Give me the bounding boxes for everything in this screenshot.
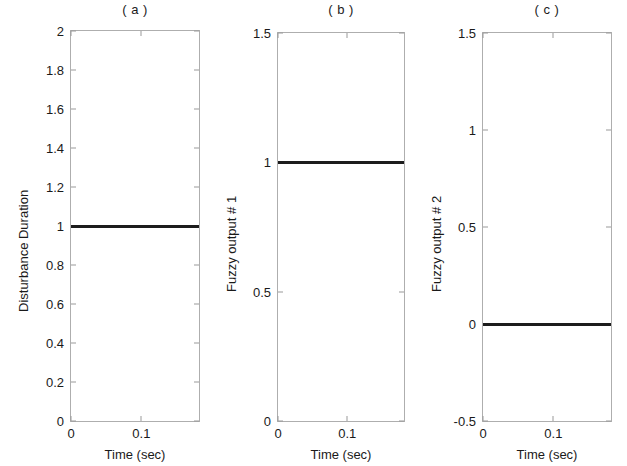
- panel-b-series-segment: [320, 161, 334, 164]
- panel-a-series-segment: [127, 225, 141, 228]
- panel-b-y-axis-label: Fuzzy output # 1: [224, 196, 239, 292]
- panel-a-y-tickmark: [71, 382, 76, 383]
- panel-b-series-segment: [278, 161, 292, 164]
- panel-c-y-tickmark: [483, 33, 488, 34]
- panel-c-x-ticklabel: 0: [479, 426, 486, 441]
- panel-b-title: ( b ): [277, 2, 405, 17]
- panel-c-series-segment: [511, 323, 525, 326]
- panel-c-y-ticklabel: 0.5: [417, 220, 483, 235]
- panel-a-y-ticklabel: 0.2: [0, 375, 71, 390]
- panel-c-x-tickmark: [553, 416, 554, 421]
- panel-c-x-axis-label: Time (sec): [482, 447, 612, 462]
- panel-b-y-ticklabel: 0.5: [210, 284, 278, 299]
- panel-a-y-tickmark: [194, 265, 199, 266]
- panel-a-y-ticklabel: 0: [0, 414, 71, 429]
- panel-c: ( c ) -0.500.511.5 00.1 Time (sec) Fuzzy…: [417, 0, 627, 466]
- panel-b-series-segment: [389, 161, 404, 164]
- panel-a-y-tickmark: [71, 304, 76, 305]
- panel-b-y-ticklabel: 0: [210, 414, 278, 429]
- panel-b-series-segment: [306, 161, 320, 164]
- panel-a-y-ticklabel: 1: [0, 219, 71, 234]
- panel-c-x-tickmark: [553, 33, 554, 38]
- panel-c-x-ticklabel: 0.1: [544, 426, 562, 441]
- panel-b-series-segment: [361, 161, 375, 164]
- panel-c-series-segment: [525, 323, 539, 326]
- panel-a-series-segment: [99, 225, 113, 228]
- panel-a-y-tickmark: [194, 109, 199, 110]
- panel-c-y-tickmark: [606, 227, 611, 228]
- panel-b-y-ticklabel: 1.5: [210, 26, 278, 41]
- panel-a-y-tickmark: [194, 31, 199, 32]
- panel-a-x-tickmark: [141, 31, 142, 36]
- panel-c-y-tickmark: [606, 33, 611, 34]
- panel-b-y-tickmark: [399, 421, 404, 422]
- panel-a-y-ticklabel: 0.4: [0, 336, 71, 351]
- panel-c-y-ticklabel: -0.5: [417, 414, 483, 429]
- panel-a-title: ( a ): [70, 2, 200, 17]
- panel-c-y-tickmark: [606, 421, 611, 422]
- panel-a-y-tickmark: [194, 343, 199, 344]
- panel-c-series-segment: [567, 323, 581, 326]
- panel-a-y-tickmark: [71, 265, 76, 266]
- panel-a-y-ticklabel: 1.2: [0, 180, 71, 195]
- panel-a-series-segment: [169, 225, 183, 228]
- panel-a-x-ticklabel: 0.1: [132, 426, 150, 441]
- panel-c-y-tickmark: [483, 130, 488, 131]
- panel-a-y-tickmark: [71, 109, 76, 110]
- panel-b-series-segment: [292, 161, 306, 164]
- panel-c-y-ticklabel: 1.5: [417, 26, 483, 41]
- panel-b-x-ticklabel: 0.1: [338, 426, 356, 441]
- panel-a-y-tickmark: [71, 148, 76, 149]
- panel-a-y-tickmark: [194, 382, 199, 383]
- panel-a-y-ticklabel: 1.8: [0, 63, 71, 78]
- panel-c-y-tickmark: [606, 130, 611, 131]
- panel-b-plot-box: [277, 32, 405, 422]
- panel-a-series-segment: [71, 225, 85, 228]
- panel-a-y-tickmark: [194, 304, 199, 305]
- panel-a-y-tickmark: [71, 70, 76, 71]
- panel-a-x-axis-label: Time (sec): [70, 447, 200, 462]
- panel-a-x-ticklabel: 0: [67, 426, 74, 441]
- panel-a-y-ticklabel: 0.6: [0, 297, 71, 312]
- panel-b-series-segment: [347, 161, 361, 164]
- panel-a-series-segment: [155, 225, 169, 228]
- panel-a-plot-box: [70, 30, 200, 422]
- figure-canvas: ( a ) 00.20.40.60.811.21.41.61.82 00.1 T…: [0, 0, 627, 466]
- panel-b-y-ticklabel: 1: [210, 155, 278, 170]
- panel-b-x-ticklabel: 0: [274, 426, 281, 441]
- panel-a-series-segment: [184, 225, 199, 228]
- panel-a-series-segment: [113, 225, 127, 228]
- panel-c-title: ( c ): [482, 2, 612, 17]
- panel-a: ( a ) 00.20.40.60.811.21.41.61.82 00.1 T…: [0, 0, 210, 466]
- panel-a-y-tickmark: [194, 70, 199, 71]
- panel-a-y-axis-label: Disturbance Duration: [16, 190, 31, 312]
- panel-b: ( b ) 00.511.5 00.1 Time (sec) Fuzzy out…: [210, 0, 417, 466]
- panel-a-y-ticklabel: 1.4: [0, 141, 71, 156]
- panel-a-y-tickmark: [194, 148, 199, 149]
- panel-c-y-tickmark: [483, 421, 488, 422]
- panel-a-y-ticklabel: 2: [0, 24, 71, 39]
- panel-a-y-ticklabel: 0.8: [0, 258, 71, 273]
- panel-a-y-tickmark: [71, 343, 76, 344]
- panel-a-y-tickmark: [71, 421, 76, 422]
- panel-a-y-tickmark: [194, 421, 199, 422]
- panel-c-series-segment: [553, 323, 567, 326]
- panel-b-x-axis-label: Time (sec): [277, 447, 405, 462]
- panel-c-plot-box: [482, 32, 612, 422]
- panel-c-series-segment: [539, 323, 553, 326]
- panel-a-y-tickmark: [194, 187, 199, 188]
- panel-a-y-tickmark: [71, 31, 76, 32]
- panel-c-series-segment: [596, 323, 611, 326]
- panel-a-series-segment: [85, 225, 99, 228]
- panel-a-y-ticklabel: 1.6: [0, 102, 71, 117]
- panel-c-y-axis-label: Fuzzy output # 2: [429, 196, 444, 292]
- panel-a-x-tickmark: [141, 416, 142, 421]
- panel-c-series-segment: [483, 323, 497, 326]
- panel-b-series-segment: [333, 161, 347, 164]
- panel-b-y-tickmark: [399, 291, 404, 292]
- panel-c-y-tickmark: [483, 227, 488, 228]
- panel-a-y-tickmark: [71, 187, 76, 188]
- panel-b-y-tickmark: [399, 33, 404, 34]
- panel-a-series-segment: [141, 225, 155, 228]
- panel-b-series-segment: [375, 161, 389, 164]
